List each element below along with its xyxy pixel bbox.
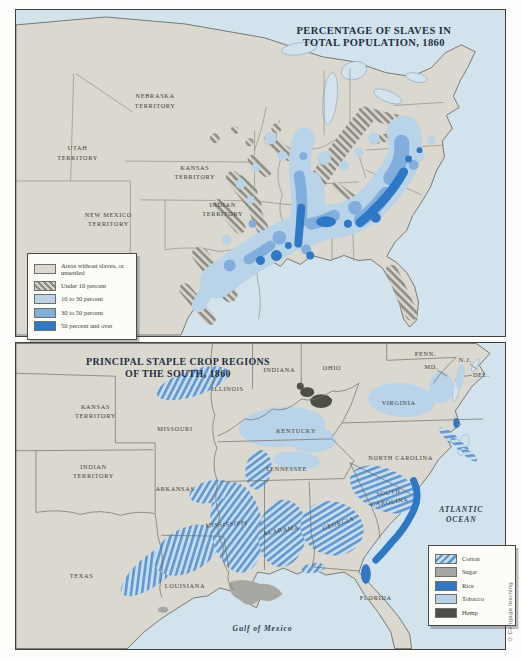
map-label-kentucky: KENTUCKY (276, 427, 316, 434)
copyright-credit: © Cengage learning (507, 582, 513, 642)
legend-label: Tobacco (462, 595, 484, 603)
legend-label: Areas without slaves, or unsettled (61, 262, 130, 278)
map-label-nj: N.J. (459, 356, 472, 363)
legend-item-cotton: Cotton (435, 554, 509, 564)
cotton-swatch (435, 554, 457, 564)
legend-item-30-50: 30 to 50 percent (34, 308, 130, 318)
map-label-new-mexico-territory: NEW MEXICO (85, 211, 132, 218)
map-label-indian-territory: TERRITORY (202, 210, 243, 217)
no-slaves-swatch (34, 264, 56, 274)
map-label-texas: TEXAS (70, 572, 94, 579)
legend-label: 50 percent and over (61, 322, 112, 330)
legend-item-10-30: 10 to 30 percent (34, 294, 130, 304)
top-map-title-line2: TOTAL POPULATION, 1860 (303, 37, 445, 48)
map-label-louisiana: LOUISIANA (165, 582, 205, 589)
legend-item-tobacco: Tobacco (435, 594, 509, 604)
map-label-kansas-territory: KANSAS (81, 403, 110, 410)
map-label-nebraska-territory: NEBRASKA (136, 92, 175, 99)
map-label-indian-territory: TERRITORY (73, 472, 114, 479)
map-label-kansas-territory: TERRITORY (174, 173, 215, 180)
map-label-tennessee: TENNESSEE (266, 465, 307, 472)
map-label-indiana: INDIANA (264, 366, 296, 373)
pct-10-30-swatch (34, 294, 56, 304)
legend-label: Hemp (462, 609, 478, 617)
slaves-map-panel: PERCENTAGE OF SLAVES IN TOTAL POPULATION… (15, 9, 506, 337)
map-label-illinois: ILLINOIS (212, 385, 244, 392)
legend-label: Under 10 percent (61, 282, 106, 290)
map-label-north-carolina: NORTH CAROLINA (368, 454, 433, 461)
map-label-virginia: VIRGINIA (382, 399, 416, 406)
legend-item-sugar: Sugar (435, 567, 509, 577)
map-label-del: DEL. (473, 371, 490, 378)
crops-map-panel: PRINCIPAL STAPLE CROP REGIONS OF THE SOU… (15, 342, 506, 650)
legend-item-50-over: 50 percent and over (34, 321, 130, 331)
slaves-map-legend: Areas without slaves, or unsettled Under… (27, 253, 137, 340)
map-label-utah-territory: TERRITORY (57, 154, 98, 161)
map-label-atlantic-ocean: ATLANTIC (438, 505, 483, 514)
map-label-penn: PENN. (415, 350, 436, 357)
map-label-indian-territory: INDIAN (210, 201, 236, 208)
crops-map-legend: Cotton Sugar Rice Tobacco Hemp (428, 545, 516, 626)
map-label-md: MD. (425, 363, 439, 370)
legend-label: Cotton (462, 555, 480, 563)
legend-item-rice: Rice (435, 581, 509, 591)
map-label-kansas-territory: TERRITORY (75, 412, 116, 419)
map-label-ohio: OHIO (323, 364, 341, 371)
map-label-missouri: MISSOURI (157, 425, 192, 432)
legend-label: 10 to 30 percent (61, 295, 103, 303)
map-label-nebraska-territory: TERRITORY (135, 102, 176, 109)
sugar-swatch (435, 567, 457, 577)
pct-30-50-swatch (34, 308, 56, 318)
map-label-atlantic-ocean: OCEAN (446, 515, 476, 524)
under-10-swatch (34, 281, 56, 291)
map-label-kansas-territory: KANSAS (180, 164, 209, 171)
map-label-new-mexico-territory: TERRITORY (88, 220, 129, 227)
tobacco-swatch (435, 594, 457, 604)
legend-label: Sugar (462, 568, 477, 576)
legend-item-under-10: Under 10 percent (34, 281, 130, 291)
textbook-map-figure: PERCENTAGE OF SLAVES IN TOTAL POPULATION… (0, 0, 521, 659)
legend-label: Rice (462, 582, 474, 590)
map-label-florida: FLORIDA (360, 594, 392, 601)
hemp-swatch (435, 608, 457, 618)
bottom-map-title-line2: OF THE SOUTH, 1860 (125, 368, 231, 379)
rice-swatch (435, 581, 457, 591)
legend-label: 30 to 50 percent (61, 309, 103, 317)
legend-item-hemp: Hemp (435, 608, 509, 618)
map-label-utah-territory: UTAH (68, 144, 88, 151)
map-label-gulf-of-mexico: Gulf of Mexico (233, 624, 293, 633)
pct-50-over-swatch (34, 321, 56, 331)
map-label-arkansas: ARKANSAS (155, 485, 194, 492)
bottom-map-title-line1: PRINCIPAL STAPLE CROP REGIONS (86, 356, 270, 367)
top-map-title-line1: PERCENTAGE OF SLAVES IN (296, 25, 451, 36)
map-label-indian-territory: INDIAN (80, 463, 106, 470)
legend-item-no-slaves: Areas without slaves, or unsettled (34, 262, 130, 278)
